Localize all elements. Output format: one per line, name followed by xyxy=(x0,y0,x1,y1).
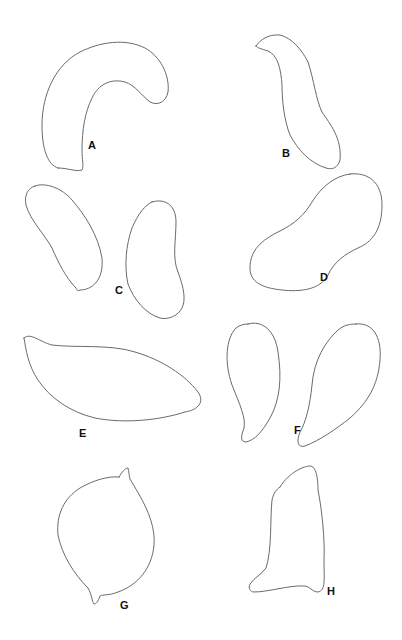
shape-d xyxy=(250,174,382,291)
shape-g xyxy=(58,468,154,604)
shape-f-right xyxy=(298,324,380,447)
shape-c-right xyxy=(126,201,184,319)
shape-b xyxy=(256,35,340,169)
shape-e xyxy=(24,336,201,421)
label-g: G xyxy=(120,600,129,611)
label-h: H xyxy=(327,586,335,597)
label-e: E xyxy=(79,428,86,439)
shape-c-left xyxy=(25,185,102,291)
label-d: D xyxy=(320,272,328,283)
label-a: A xyxy=(88,140,96,151)
shape-a xyxy=(42,42,168,170)
label-b: B xyxy=(282,148,290,159)
shape-f-left xyxy=(227,323,280,442)
specimen-figure xyxy=(0,0,402,640)
label-c: C xyxy=(115,285,123,296)
shape-h xyxy=(249,466,324,592)
label-f: F xyxy=(294,425,301,436)
